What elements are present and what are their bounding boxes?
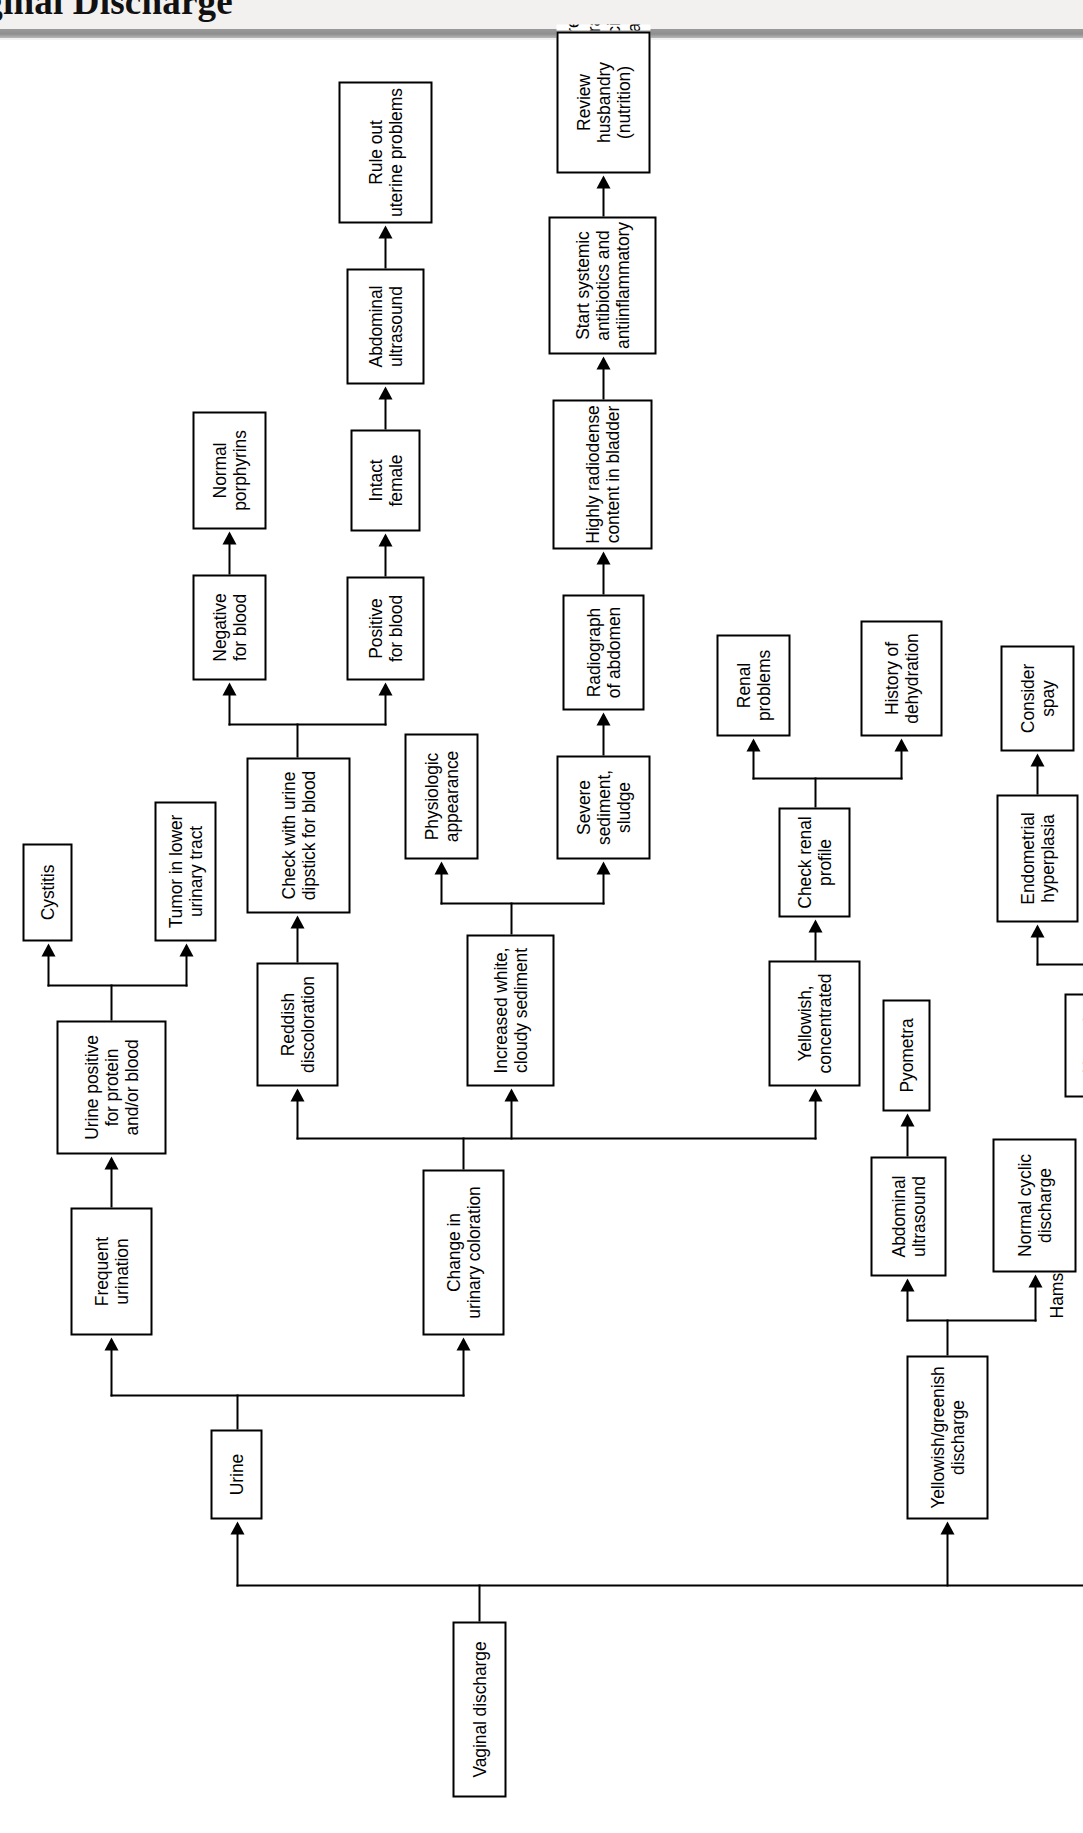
node-rule-out-uterine-problems[interactable]: Rule out uterine problems bbox=[338, 81, 432, 223]
node-review-husbandry-nutrition[interactable]: Review husbandry (nutrition) bbox=[556, 31, 650, 173]
arrowhead-to-normal-porphyrins bbox=[222, 531, 236, 544]
node-normal-cyclic-discharge[interactable]: Normal cyclic discharge bbox=[992, 1138, 1076, 1272]
connector-ygdischarge-out bbox=[946, 1319, 948, 1355]
arrowhead-to-yellowish-concentrated bbox=[808, 1088, 822, 1101]
node-consider-spay[interactable]: Consider spay bbox=[1000, 645, 1074, 751]
node-vaginal-discharge[interactable]: Vaginal discharge bbox=[452, 1621, 506, 1797]
arrowhead-to-increased-white-cloudy bbox=[504, 1088, 518, 1101]
connector-to-cystitis bbox=[47, 954, 49, 986]
connector-radiograph-to-radiodense bbox=[602, 562, 604, 594]
connector-to-change-urinary-coloration bbox=[462, 1348, 464, 1396]
node-tumor-lower-urinary-tract[interactable]: Tumor in lower urinary tract bbox=[154, 801, 216, 941]
connector-negative-to-normal-porphyrins bbox=[228, 542, 230, 574]
node-change-in-urinary-coloration[interactable]: Change in urinary coloration bbox=[422, 1169, 504, 1335]
connector-urinepositive-out bbox=[110, 984, 112, 1020]
arrowhead-to-urine bbox=[230, 1521, 244, 1534]
connector-yellowish-to-renal-profile bbox=[814, 930, 816, 960]
connector-to-yellowish-concentrated bbox=[814, 1099, 816, 1139]
arrowhead-to-reddish-discoloration bbox=[290, 1088, 304, 1101]
connector-to-negative-for-blood bbox=[228, 693, 230, 725]
node-radiograph-of-abdomen[interactable]: Radiograph of abdomen bbox=[562, 594, 644, 710]
arrowhead-to-severe-sediment bbox=[596, 861, 610, 874]
arrowhead-to-tumor-lower-urinary bbox=[179, 943, 193, 956]
node-pyometra[interactable]: Pyometra bbox=[882, 999, 930, 1111]
connector-root-stub bbox=[478, 1584, 480, 1621]
node-check-renal-profile[interactable]: Check renal profile bbox=[778, 807, 850, 917]
connector-to-abdominal-ultrasound-pyometra bbox=[906, 1289, 908, 1321]
connector-reddish-to-dipstick bbox=[296, 926, 298, 962]
connector-to-positive-for-blood bbox=[384, 693, 386, 725]
arrowhead-to-abdominal-ultrasound-1 bbox=[378, 386, 392, 399]
node-reddish-discoloration[interactable]: Reddish discoloration bbox=[256, 962, 338, 1086]
node-renal-problems[interactable]: Renal problems bbox=[716, 634, 790, 736]
connector-root-spine bbox=[236, 1584, 1083, 1586]
connector-dipstick-split bbox=[228, 723, 386, 725]
connector-renalprofile-out bbox=[814, 777, 816, 807]
connector-ygdischarge-split bbox=[906, 1319, 1036, 1321]
arrowhead-to-radiograph-abdomen bbox=[596, 712, 610, 725]
connector-to-increased-white-cloudy bbox=[510, 1099, 512, 1139]
node-abdominal-ultrasound-urine[interactable]: Abdominal ultrasound bbox=[346, 268, 424, 384]
node-normal-porphyrins[interactable]: Normal porphyrins bbox=[192, 411, 266, 529]
node-increased-white-cloudy-sediment[interactable]: Increased white, cloudy sediment bbox=[466, 934, 554, 1086]
node-abdominal-ultrasound-pyometra[interactable]: Abdominal ultrasound bbox=[870, 1156, 946, 1276]
arrowhead-to-cystitis bbox=[41, 943, 55, 956]
arrowhead-to-highly-radiodense bbox=[596, 551, 610, 564]
connector-urine-spine bbox=[110, 1394, 464, 1396]
connector-hyperplasia-to-consider-spay bbox=[1036, 764, 1038, 794]
connector-to-endometrial-hyperplasia bbox=[1036, 935, 1038, 965]
node-intact-female[interactable]: Intact female bbox=[350, 429, 420, 531]
connector-ultrasound-to-rule-out bbox=[384, 236, 386, 268]
connector-positive-to-intact-female bbox=[384, 544, 386, 576]
flowchart-canvas: Vaginal discharge Urine Frequent urinati… bbox=[0, 42, 1083, 1833]
node-urine-positive-protein-blood[interactable]: Urine positive for protein and/or blood bbox=[56, 1020, 166, 1154]
connector-coloration-spine bbox=[296, 1137, 816, 1139]
arrowhead-to-dipstick bbox=[290, 915, 304, 928]
connector-frequent-to-urinepositive bbox=[110, 1167, 112, 1207]
connector-cloudy-out bbox=[510, 902, 512, 934]
arrowhead-to-renal-problems bbox=[746, 738, 760, 751]
node-decrease-oral-calcium-intake[interactable]: Decrease oral calcium intake bbox=[556, 24, 650, 30]
connector-to-history-dehydration bbox=[900, 749, 902, 779]
arrowhead-to-frequent-urination bbox=[104, 1337, 118, 1350]
connector-to-reddish-discoloration bbox=[296, 1099, 298, 1139]
node-cystitis[interactable]: Cystitis bbox=[22, 843, 72, 941]
arrowhead-to-history-of-dehydration bbox=[894, 738, 908, 751]
connector-renalprofile-split bbox=[752, 777, 902, 779]
node-history-of-dehydration[interactable]: History of dehydration bbox=[860, 620, 942, 736]
connector-to-renal-problems bbox=[752, 749, 754, 779]
node-negative-for-blood[interactable]: Negative for blood bbox=[192, 574, 266, 680]
node-start-systemic-antibiotics-antiinflammatory[interactable]: Start systemic antibiotics and antiinfla… bbox=[548, 216, 656, 354]
node-endometrial-hyperplasia[interactable]: Endometrial hyperplasia bbox=[996, 794, 1078, 922]
node-normal-uterus[interactable]: Normal uterus bbox=[1064, 993, 1083, 1097]
connector-to-physiologic-appearance bbox=[440, 872, 442, 904]
node-frequent-urination[interactable]: Frequent urination bbox=[70, 1207, 152, 1335]
connector-cloudy-split bbox=[440, 902, 604, 904]
connector-to-normal-cyclic-discharge bbox=[1034, 1285, 1036, 1321]
connector-to-urine bbox=[236, 1532, 238, 1586]
connector-to-severe-sediment bbox=[602, 872, 604, 904]
connector-coloration-stub bbox=[462, 1137, 464, 1169]
connector-urinepositive-split bbox=[47, 984, 187, 986]
node-physiologic-appearance[interactable]: Physiologic appearance bbox=[404, 733, 478, 859]
connector-radiodense-to-antibiotics bbox=[602, 367, 604, 399]
node-yellowish-concentrated[interactable]: Yellowish, concentrated bbox=[768, 960, 860, 1086]
node-positive-for-blood[interactable]: Positive for blood bbox=[346, 576, 424, 680]
connector-to-yellowish-greenish-discharge bbox=[946, 1532, 948, 1586]
node-highly-radiodense-content-bladder[interactable]: Highly radiodense content in bladder bbox=[552, 399, 652, 549]
node-check-urine-dipstick-blood[interactable]: Check with urine dipstick for blood bbox=[246, 757, 350, 913]
connector-severesediment-to-radiograph bbox=[602, 723, 604, 755]
arrowhead-to-pyometra bbox=[900, 1113, 914, 1126]
arrowhead-to-change-urinary-coloration bbox=[456, 1337, 470, 1350]
arrowhead-to-consider-spay bbox=[1030, 753, 1044, 766]
connector-antibiotics-to-husbandry bbox=[602, 186, 604, 216]
connector-dipstick-out bbox=[296, 723, 298, 757]
connector-intactfemale-to-abdominal-ultrasound bbox=[384, 397, 386, 429]
arrowhead-to-intact-female bbox=[378, 533, 392, 546]
arrowhead-to-abdominal-ultrasound-2 bbox=[900, 1278, 914, 1291]
node-severe-sediment-sludge[interactable]: Severe sediment, sludge bbox=[556, 755, 650, 859]
arrowhead-to-start-systemic-antibiotics bbox=[596, 356, 610, 369]
node-yellowish-greenish-discharge[interactable]: Yellowish/greenish discharge bbox=[906, 1355, 988, 1519]
node-urine[interactable]: Urine bbox=[210, 1429, 262, 1519]
arrowhead-to-review-husbandry bbox=[596, 175, 610, 188]
